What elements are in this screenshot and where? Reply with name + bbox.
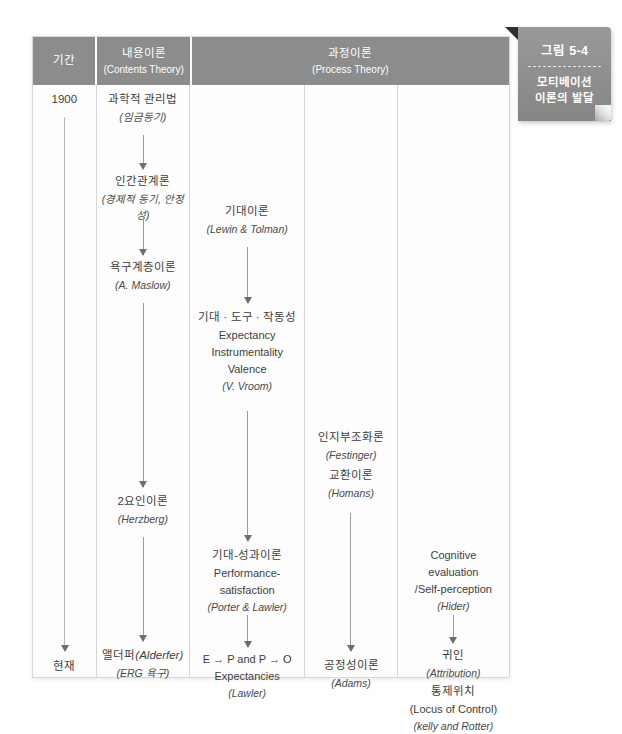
arrow-porter-lawler-to-lawler [247, 615, 248, 647]
node-locus-of-control-en: (Locus of Control) [398, 701, 509, 718]
header-process-theory-ko: 과정이론 [328, 45, 372, 62]
node-vie-sub: (V. Vroom) [190, 378, 304, 394]
node-equity-theory-ko: 공정성이론 [305, 657, 396, 675]
figure-title-line2: 이론의 발달 [535, 92, 593, 104]
node-human-relations-ko: 인간관계론 [97, 173, 189, 191]
node-alderfer-ko: 앨더퍼(Alderfer) [97, 647, 189, 665]
timeline-start-label: 1900 [33, 93, 96, 105]
arrow-exchange-to-equity [350, 513, 351, 651]
node-performance-satisfaction-en: Performance- satisfaction [190, 565, 304, 599]
node-attribution-ko: 귀인 [398, 647, 509, 665]
header-cell-period: 기간 [33, 37, 97, 85]
arrow-maslow-to-herzberg [143, 303, 144, 487]
header-contents-theory-en: (Contents Theory) [103, 62, 183, 77]
arrow-herzberg-to-alderfer [143, 537, 144, 641]
node-ep-po-expectancies: E → P and P → O Expectancies (Lawler) [190, 651, 304, 701]
column-process-dissonance: 인지부조화론 (Festinger) 교환이론 (Homans) 공정성이론 (… [305, 85, 397, 677]
node-expectancy-theory: 기대이론 (Lewin & Tolman) [190, 203, 304, 237]
node-locus-of-control-ko: 통제위치 [398, 683, 509, 701]
node-cognitive-evaluation: Cognitive evaluation /Self-perception (H… [398, 547, 509, 614]
arrow-cognitive-evaluation-to-attribution [453, 615, 454, 643]
node-vie-ko: 기대 · 도구 · 작동성 [190, 309, 304, 327]
node-ep-po-expectancies-en: E → P and P → O Expectancies [190, 651, 304, 685]
node-equity-theory: 공정성이론 (Adams) [305, 657, 396, 691]
node-cognitive-dissonance-sub: (Festinger) [305, 447, 396, 463]
node-two-factor-theory-sub: (Herzberg) [97, 511, 189, 527]
node-scientific-management-sub: (임금동기) [97, 109, 189, 125]
header-period-label: 기간 [53, 52, 75, 69]
node-vie-vroom: 기대 · 도구 · 작동성 Expectancy Instrumentality… [190, 309, 304, 394]
node-ep-po-expectancies-sub: (Lawler) [190, 685, 304, 701]
node-exchange-theory: 교환이론 (Homans) [305, 467, 396, 501]
arrow-scientific-to-human-relations [143, 135, 144, 169]
timeline-end-label: 현재 [33, 657, 96, 673]
node-cognitive-evaluation-en: Cognitive evaluation /Self-perception [398, 547, 509, 598]
node-cognitive-dissonance: 인지부조화론 (Festinger) [305, 429, 396, 463]
column-process-expectancy: 기대이론 (Lewin & Tolman) 기대 · 도구 · 작동성 Expe… [190, 85, 305, 677]
header-cell-process-theory: 과정이론 (Process Theory) [192, 37, 509, 85]
diagram-frame: 기간 내용이론 (Contents Theory) 과정이론 (Process … [32, 36, 510, 678]
figure-title-line1: 모티베이션 [537, 76, 592, 88]
node-performance-satisfaction-ko: 기대-성과이론 [190, 547, 304, 565]
node-locus-of-control-sub: (kelly and Rotter) [398, 718, 509, 734]
node-alderfer-sub: (ERG 욕구) [97, 665, 189, 681]
node-equity-theory-sub: (Adams) [305, 675, 396, 691]
node-performance-satisfaction-sub: (Porter & Lawler) [190, 599, 304, 615]
node-exchange-theory-sub: (Homans) [305, 485, 396, 501]
tab-page-curl-icon [595, 105, 611, 121]
node-two-factor-theory: 2요인이론 (Herzberg) [97, 493, 189, 527]
node-expectancy-theory-ko: 기대이론 [190, 203, 304, 221]
node-scientific-management-ko: 과학적 관리법 [97, 91, 189, 109]
node-two-factor-theory-ko: 2요인이론 [97, 493, 189, 511]
node-alderfer: 앨더퍼(Alderfer) (ERG 욕구) [97, 647, 189, 681]
node-scientific-management: 과학적 관리법 (임금동기) [97, 91, 189, 125]
header-contents-theory-ko: 내용이론 [122, 45, 166, 62]
header-process-theory-en: (Process Theory) [312, 62, 389, 77]
node-performance-satisfaction: 기대-성과이론 Performance- satisfaction (Porte… [190, 547, 304, 615]
node-locus-of-control: 통제위치 (Locus of Control) (kelly and Rotte… [398, 683, 509, 734]
tab-fold-corner-icon [505, 27, 518, 40]
node-expectancy-theory-sub: (Lewin & Tolman) [190, 221, 304, 237]
node-attribution-sub: (Attribution) [398, 665, 509, 681]
figure-tab: 그림 5-4 모티베이션 이론의 발달 [518, 27, 611, 121]
figure-title: 모티베이션 이론의 발달 [518, 67, 611, 107]
header-cell-contents-theory: 내용이론 (Contents Theory) [97, 37, 191, 85]
timeline-arrow [64, 117, 65, 651]
node-cognitive-dissonance-ko: 인지부조화론 [305, 429, 396, 447]
arrow-expectancy-to-vroom [247, 247, 248, 303]
node-vie-en: Expectancy Instrumentality Valence [190, 327, 304, 378]
arrow-vroom-to-porter-lawler [247, 411, 248, 541]
node-human-relations: 인간관계론 (경제적 동기, 안정성) [97, 173, 189, 223]
node-needs-hierarchy: 욕구계층이론 (A. Maslow) [97, 259, 189, 293]
diagram-columns: 1900 현재 과학적 관리법 (임금동기) 인간관계론 (경제적 동기, 안정… [33, 85, 509, 677]
node-attribution: 귀인 (Attribution) [398, 647, 509, 681]
figure-number: 그림 5-4 [518, 27, 611, 59]
node-needs-hierarchy-ko: 욕구계층이론 [97, 259, 189, 277]
node-exchange-theory-ko: 교환이론 [305, 467, 396, 485]
header-row: 기간 내용이론 (Contents Theory) 과정이론 (Process … [33, 37, 509, 85]
arrow-human-relations-to-maslow [143, 217, 144, 255]
node-cognitive-evaluation-sub: (Hider) [398, 598, 509, 614]
node-needs-hierarchy-sub: (A. Maslow) [97, 277, 189, 293]
column-contents-theory: 과학적 관리법 (임금동기) 인간관계론 (경제적 동기, 안정성) 욕구계층이… [97, 85, 190, 677]
column-process-attribution: Cognitive evaluation /Self-perception (H… [398, 85, 509, 677]
column-period: 1900 현재 [33, 85, 97, 677]
